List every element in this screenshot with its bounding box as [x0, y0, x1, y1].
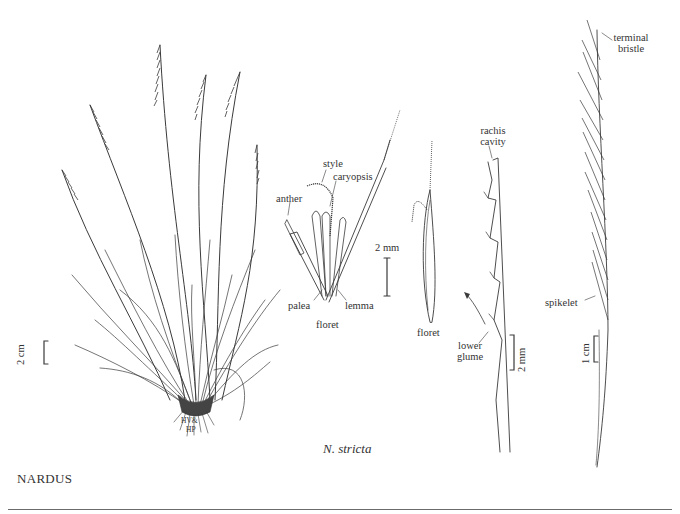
label-palea: palea	[288, 300, 310, 311]
label-lemma: lemma	[345, 300, 374, 311]
inflorescence-illustration	[578, 20, 612, 467]
label-terminal-bristle-line1: terminal	[609, 32, 653, 43]
artist-monogram: HV& HP	[181, 416, 198, 434]
rachis-illustration	[464, 146, 510, 452]
rachis-scale-bar	[510, 335, 514, 370]
species-caption: N. stricta	[323, 441, 371, 457]
inflorescence-scale-bar	[594, 336, 598, 362]
label-rachis-cavity-line1: rachis	[478, 125, 508, 136]
label-rachis-cavity-line2: cavity	[478, 136, 508, 147]
label-lower-glume-line2: glume	[455, 351, 485, 362]
label-lower-glume: lower glume	[455, 340, 485, 362]
label-anther: anther	[276, 193, 302, 204]
botanical-plate: HV& HP 2 cm style caryopsis anther palea…	[0, 0, 680, 514]
habit-scale-bar	[44, 341, 48, 364]
label-caryopsis: caryopsis	[333, 171, 373, 182]
label-floret-dissected: floret	[316, 319, 339, 330]
genus-heading: NARDUS	[17, 471, 72, 487]
rachis-scale-label: 2 mm	[516, 348, 527, 372]
whole-floret-illustration	[412, 140, 435, 322]
label-terminal-bristle: terminal bristle	[609, 32, 653, 54]
label-rachis-cavity: rachis cavity	[478, 125, 508, 147]
dissected-floret-illustration	[285, 110, 400, 302]
svg-text:HV&: HV&	[181, 416, 198, 425]
habit-illustration	[62, 45, 280, 436]
floret-scale-label: 2 mm	[375, 242, 399, 253]
habit-scale-label: 2 cm	[15, 344, 26, 365]
label-spikelet: spikelet	[545, 297, 578, 308]
label-lower-glume-line1: lower	[455, 340, 485, 351]
floret-scale-bar	[384, 258, 390, 296]
inflorescence-scale-label: 1 cm	[580, 343, 591, 364]
label-floret-whole: floret	[417, 327, 440, 338]
svg-text:HP: HP	[186, 425, 196, 434]
bottom-divider	[8, 509, 672, 510]
label-terminal-bristle-line2: bristle	[609, 43, 653, 54]
label-style: style	[323, 158, 343, 169]
plate-drawing: HV& HP	[0, 0, 680, 514]
